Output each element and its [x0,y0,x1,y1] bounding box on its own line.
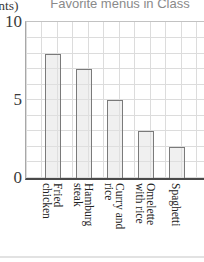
x-axis-category-labels: Fried chickenHamburg steakCurry and rice… [25,183,204,262]
y-tick-label: 0 [0,168,22,185]
bar [107,100,123,178]
x-category-label: Fried chicken [40,183,63,219]
plot-area [25,21,204,180]
bar [45,54,61,178]
x-category-label: Hamburg steak [71,183,94,226]
bar [138,131,154,178]
y-tick-label: 5 [0,90,22,107]
x-category-label: Spaghetti [170,183,182,226]
chart-title: Favorite menus in Class [36,0,204,11]
y-tick-label: 10 [0,13,22,30]
bar [76,69,92,178]
bar [169,147,185,178]
x-category-label: Curry and rice [102,183,125,229]
y-axis-tick-labels: 0510 [0,21,22,177]
x-category-label: Omelette with rice [133,183,156,225]
bar-chart: (Students) Favorite menus in Class 0510 … [0,0,204,262]
bottom-edge-strip [0,256,204,258]
